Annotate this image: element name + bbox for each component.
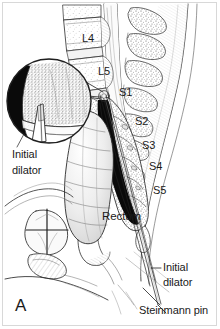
callout-initial-dilator-inset-line2: dilator [12, 165, 41, 177]
vertebra-label-s3: S3 [142, 140, 155, 152]
callout-initial-dilator-distal-line1: Initial [163, 262, 188, 274]
vertebra-label-l4: L4 [82, 33, 94, 45]
vertebra-label-s1: S1 [119, 87, 132, 99]
callout-steinmann-pin: Steinmann pin [139, 305, 208, 317]
vertebra-label-l5: L5 [98, 66, 110, 78]
panel-letter: A [15, 297, 27, 315]
organ-label-rectum: Rectum [102, 210, 141, 222]
vertebra-label-s5: S5 [153, 185, 166, 197]
vertebra-label-s4: S4 [149, 161, 162, 173]
medical-illustration-figure: L4 L5 S1 S2 S3 S4 S5 Rectum Initial dila… [0, 0, 220, 329]
callout-initial-dilator-distal-line2: dilator [163, 277, 192, 289]
vertebra-label-s2: S2 [135, 116, 148, 128]
callout-initial-dilator-inset-line1: Initial [12, 149, 37, 161]
